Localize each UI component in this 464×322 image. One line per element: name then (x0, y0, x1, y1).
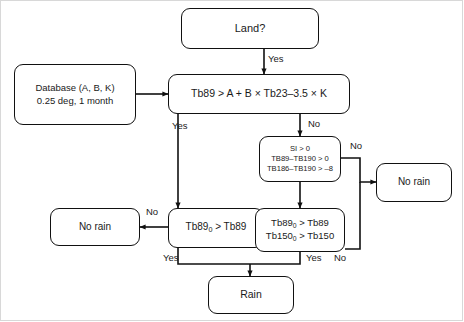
edge-label-tb89-tb150-no: No (334, 252, 346, 263)
node-si-test-line2: TB89–TB190 > 0 (271, 154, 329, 164)
node-land[interactable]: Land? (181, 8, 319, 49)
edge-tb89tb150-yes-merge (250, 252, 300, 264)
edge-si-no-to-norain (341, 158, 376, 182)
edge-tb89-yes-merge (178, 248, 250, 264)
edge-tb89tb150-no-to-norain (345, 182, 360, 249)
node-no-rain-left-label: No rain (79, 221, 111, 234)
node-si-test[interactable]: SI > 0 TB89–TB190 > 0 TB186–TB190 > –8 (259, 136, 341, 182)
node-tb89-tb150-test-line2: Tb1500 > Tb150 (266, 230, 334, 243)
edge-label-main-no: No (308, 118, 320, 129)
node-tb89-tb150-test[interactable]: Tb890 > Tb89 Tb1500 > Tb150 (255, 208, 345, 252)
node-main-test[interactable]: Tb89 > A + B × Tb23–3.5 × K (168, 74, 350, 114)
node-si-test-line1: SI > 0 (290, 144, 310, 154)
node-land-label: Land? (235, 21, 266, 35)
node-si-test-line3: TB186–TB190 > –8 (267, 164, 333, 174)
node-no-rain-right[interactable]: No rain (376, 163, 452, 202)
node-no-rain-left[interactable]: No rain (50, 208, 140, 246)
node-tb89-test[interactable]: Tb890 > Tb89 (168, 208, 264, 248)
edge-label-main-yes: Yes (172, 120, 188, 131)
node-main-test-label: Tb89 > A + B × Tb23–3.5 × K (191, 87, 327, 100)
node-database-line2: 0.25 deg, 1 month (37, 95, 114, 107)
node-database-line1: Database (A, B, K) (35, 82, 114, 94)
edge-label-tb89-tb150-yes: Yes (306, 252, 322, 263)
node-rain-label: Rain (240, 288, 262, 301)
node-tb89-tb150-test-line1: Tb890 > Tb89 (271, 217, 329, 230)
node-no-rain-right-label: No rain (398, 176, 430, 189)
node-database[interactable]: Database (A, B, K) 0.25 deg, 1 month (14, 64, 136, 125)
edge-label-tb89-no: No (146, 206, 158, 217)
node-rain[interactable]: Rain (208, 276, 294, 314)
edge-label-si-no: No (350, 140, 362, 151)
edge-label-land-yes: Yes (268, 53, 284, 64)
node-tb89-test-label: Tb890 > Tb89 (186, 221, 247, 234)
flowchart-canvas: Land? Database (A, B, K) 0.25 deg, 1 mon… (0, 0, 464, 322)
edge-label-tb89-yes: Yes (163, 252, 179, 263)
